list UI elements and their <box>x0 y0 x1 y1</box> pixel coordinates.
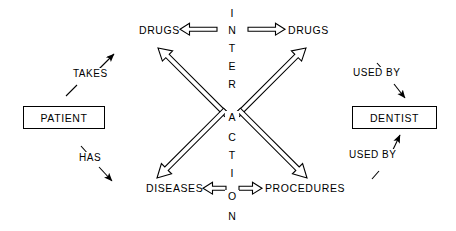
entity-box-patient[interactable]: PATIENT <box>23 106 105 129</box>
center-letter-8: T <box>225 149 239 161</box>
center-letter-1: I <box>225 7 239 19</box>
hollow-arrow-hub-to-drugs-left <box>158 48 228 117</box>
center-letter-10: O <box>225 190 239 202</box>
center-letter-hub-a: A <box>225 111 239 123</box>
relationship-label-used-by-top: USED BY <box>352 67 401 78</box>
node-label-diseases[interactable]: DISEASES <box>146 182 203 194</box>
center-letter-5: R <box>225 78 239 90</box>
relationship-label-has: HAS <box>78 152 102 163</box>
entity-box-dentist[interactable]: DENTIST <box>352 106 437 129</box>
center-letter-2: N <box>225 24 239 36</box>
relationship-label-takes: TAKES <box>72 68 109 79</box>
center-letter-3: T <box>225 42 239 54</box>
entity-label-patient: PATIENT <box>41 112 88 124</box>
center-letter-7: C <box>225 131 239 143</box>
center-letter-9: I <box>225 167 239 179</box>
node-label-procedures[interactable]: PROCEDURES <box>265 182 345 194</box>
interaction-diagram: PATIENT DENTIST DRUGS DRUGS DISEASES PRO… <box>0 0 456 231</box>
center-letter-11: N <box>225 210 239 222</box>
node-label-drugs-right[interactable]: DRUGS <box>288 24 329 36</box>
hollow-arrow-hub-to-drugs-right <box>236 48 306 117</box>
center-letter-4: E <box>225 60 239 72</box>
relationship-label-used-by-bottom: USED BY <box>348 149 397 160</box>
hollow-arrow-hub-to-diseases <box>157 108 227 178</box>
node-label-drugs-left[interactable]: DRUGS <box>139 24 180 36</box>
hollow-arrow-hub-to-procedures <box>237 108 307 178</box>
entity-label-dentist: DENTIST <box>370 112 419 124</box>
